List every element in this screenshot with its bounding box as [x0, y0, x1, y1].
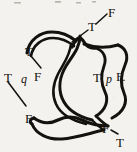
- label-t-right: T: [93, 71, 101, 84]
- label-f-lower-left: F: [25, 112, 32, 125]
- stroke-top-right-tail: [84, 44, 118, 47]
- leader-f-to-t-topright: [96, 14, 107, 24]
- label-f-left: F: [34, 70, 41, 83]
- figure-canvas: F T T T q F T p F. F F T: [0, 0, 137, 152]
- label-f-right: F.: [116, 70, 125, 83]
- stroke-bottom-ribbon-bottom: [32, 124, 104, 139]
- label-q-left: q: [21, 73, 27, 85]
- scan-artifacts: [14, 1, 96, 4]
- label-t-top-right: T: [88, 20, 96, 33]
- leader-f-bottomright-to-t: [111, 130, 118, 134]
- label-t-upper-left: T: [25, 45, 33, 58]
- label-t-left: T: [4, 71, 12, 84]
- label-f-bottom-right: F: [102, 122, 109, 135]
- stroke-central-strand-2: [54, 44, 86, 124]
- stroke-central-strand: [60, 36, 92, 120]
- label-p-right: p: [106, 73, 112, 85]
- label-t-bottom-right: T: [116, 136, 124, 149]
- label-f-top-right: F: [108, 6, 115, 19]
